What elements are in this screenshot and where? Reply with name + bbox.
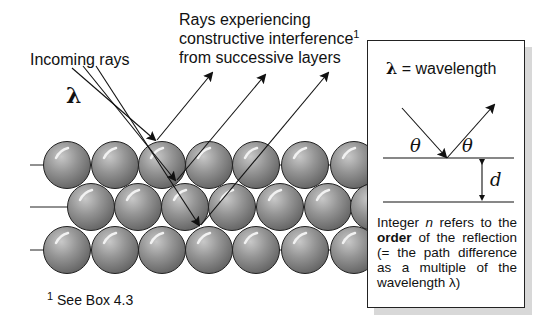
atom-lattice — [44, 142, 398, 274]
lambda-label: λ — [66, 82, 81, 108]
order-note: Integer n refers to the order of the ref… — [377, 215, 517, 290]
explanation-box: λ = wavelength θ θ d Integer n refers to… — [367, 40, 525, 308]
footnote: 1 See Box 4.3 — [47, 292, 133, 308]
reflected-label-line2: constructive interference1 — [179, 29, 359, 48]
reflected-label-line3: from successive layers — [179, 48, 359, 67]
footnote-marker: 1 — [353, 28, 359, 40]
theta-right: θ — [462, 135, 473, 156]
reflected-rays-label: Rays experiencing constructive interfere… — [179, 10, 359, 67]
lambda-symbol: λ — [386, 59, 397, 78]
reflected-label-line1: Rays experiencing — [179, 10, 359, 29]
spacing-d: d — [490, 169, 502, 190]
theta-left: θ — [410, 135, 421, 156]
wavelength-definition: λ = wavelength — [386, 59, 496, 78]
incoming-rays-label: Incoming rays — [30, 50, 130, 69]
